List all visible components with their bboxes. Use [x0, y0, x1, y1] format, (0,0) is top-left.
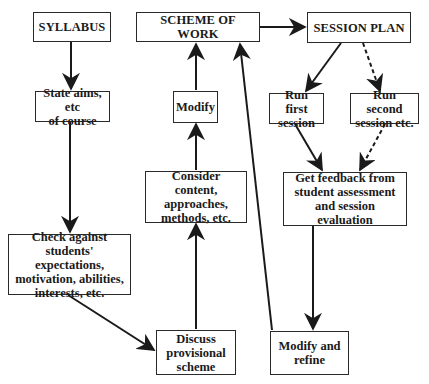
node-discuss-provisional-scheme: Discuss provisional scheme — [156, 330, 236, 375]
node-scheme-of-work-label: SCHEME OF WORK — [140, 13, 256, 41]
node-discuss-provisional-scheme-label: Discuss provisional scheme — [166, 332, 226, 374]
node-consider-content: Consider content, approaches, methods, e… — [145, 171, 247, 223]
node-check-against: Check against students' expectations, mo… — [8, 234, 131, 295]
node-run-second-session-label: Run second session etc. — [354, 88, 415, 130]
node-run-second-session: Run second session etc. — [350, 93, 419, 124]
node-get-feedback-label: Get feedback from student assessment and… — [287, 171, 403, 227]
edge-check-against-to-discuss — [68, 295, 154, 350]
node-run-first-session-label: Run first session — [273, 88, 320, 130]
node-session-plan: SESSION PLAN — [307, 12, 411, 43]
node-check-against-label: Check against students' expectations, mo… — [12, 230, 127, 300]
node-modify-and-refine: Modify and refine — [270, 331, 349, 375]
node-modify: Modify — [173, 91, 218, 123]
node-state-aims-label: State aims, etc of course — [39, 86, 106, 128]
node-state-aims: State aims, etc of course — [35, 91, 110, 122]
node-consider-content-label: Consider content, approaches, methods, e… — [149, 169, 243, 225]
node-syllabus-label: SYLLABUS — [39, 20, 106, 34]
edge-run-first-to-feedback — [295, 124, 322, 170]
node-get-feedback: Get feedback from student assessment and… — [283, 172, 407, 226]
edge-session-plan-to-run-second — [363, 43, 380, 91]
node-run-first-session: Run first session — [269, 93, 324, 124]
node-modify-label: Modify — [176, 100, 215, 114]
edge-session-plan-to-run-first — [306, 43, 341, 91]
node-modify-and-refine-label: Modify and refine — [278, 339, 340, 367]
node-session-plan-label: SESSION PLAN — [313, 21, 404, 35]
edge-run-second-to-feedback — [360, 124, 385, 170]
node-syllabus: SYLLABUS — [33, 12, 111, 42]
node-scheme-of-work: SCHEME OF WORK — [136, 12, 260, 42]
